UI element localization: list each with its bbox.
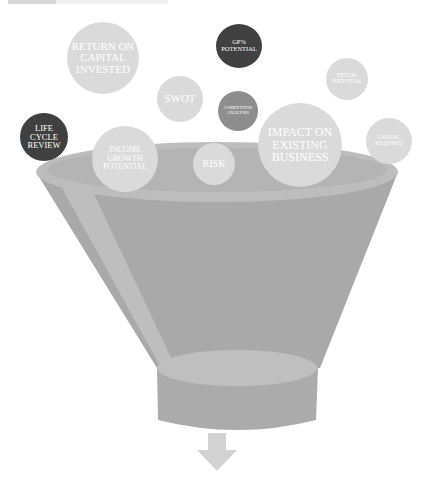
bubble-capital-required: CAPITAL REQUIRED (366, 118, 412, 164)
bubble-income-growth-potential: INCOME GROWTH POTENTIAL (92, 126, 158, 192)
bubble-return-on-capital: RETURN ON CAPITAL INVESTED (67, 22, 139, 94)
funnel-neck-top (157, 350, 317, 386)
bubble-competitor-analysis: COMPETITOR ANALYSIS (218, 91, 258, 131)
bubble-gp-potential: GP% POTENTIAL (216, 24, 262, 68)
bubble-risk: RISK (193, 143, 235, 185)
bubble-life-cycle-review: LIFE CYCLE REVIEW (20, 113, 68, 161)
bubble-ebitda-potential: EBITDA POTENTIAL (326, 58, 368, 100)
bubble-impact-existing-business: IMPACT ON EXISTING BUSINESS (258, 103, 342, 187)
bubble-swot: SWOT (157, 76, 203, 122)
arrow-down-icon (197, 450, 237, 471)
funnel-diagram: RETURN ON CAPITAL INVESTED GP% POTENTIAL… (0, 0, 431, 496)
